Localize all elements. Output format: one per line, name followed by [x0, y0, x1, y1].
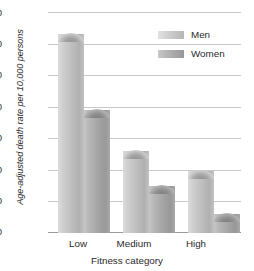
y-tick-label-30: 30: [0, 133, 2, 143]
bar-medium-men-body: [123, 151, 149, 233]
x-tick-label-high: High: [172, 238, 220, 249]
y-tick-label-70: 70: [0, 8, 2, 18]
bar-low-men-body: [58, 34, 84, 233]
y-tick-label-10: 10: [0, 196, 2, 206]
bar-low-women-body: [84, 110, 110, 233]
legend-item-men[interactable]: Men: [158, 28, 225, 42]
y-tick-label-60: 60: [0, 39, 2, 49]
legend-swatch-women-icon: [158, 50, 184, 58]
legend-label-men: Men: [191, 30, 210, 40]
bar-medium-men[interactable]: [123, 151, 149, 233]
bar-low-men[interactable]: [58, 34, 84, 233]
y-tick-label-20: 20: [0, 165, 2, 175]
y-tick-label-50: 50: [0, 70, 2, 80]
bar-high-men-body: [188, 171, 214, 233]
bar-medium-women[interactable]: [149, 186, 175, 233]
legend-label-women: Women: [191, 49, 225, 59]
bar-high-women[interactable]: [214, 214, 240, 233]
legend-swatch-men-icon: [158, 31, 184, 39]
bar-high-men[interactable]: [188, 171, 214, 233]
y-tick-label-0: 0: [0, 227, 2, 237]
y-axis-title: Age-adjusted death rate per 10,000 perso…: [15, 2, 25, 232]
chart-legend: Men Women: [158, 28, 225, 66]
bar-chart: Age-adjusted death rate per 10,000 perso…: [0, 0, 254, 271]
x-tick-label-medium: Medium: [103, 238, 165, 249]
x-tick-label-low: Low: [58, 238, 98, 249]
bar-low-women[interactable]: [84, 110, 110, 233]
x-axis-title: Fitness category: [0, 255, 254, 266]
y-tick-label-40: 40: [0, 102, 2, 112]
legend-item-women[interactable]: Women: [158, 47, 225, 61]
gridline-70: [48, 12, 241, 13]
